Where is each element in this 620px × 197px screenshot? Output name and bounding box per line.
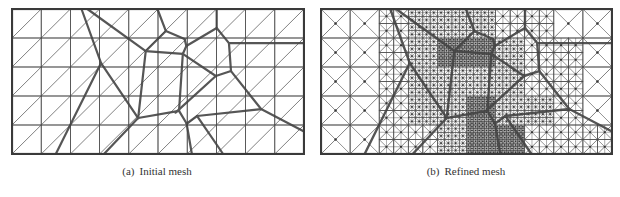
mesh-drawing <box>11 8 305 155</box>
mesh-grid <box>12 9 304 154</box>
caption-label-b: (b) <box>427 165 440 177</box>
initial-mesh-panel <box>11 8 305 155</box>
caption-text-a: Initial mesh <box>139 165 191 177</box>
caption-refined-mesh: (b)Refined mesh <box>427 165 506 177</box>
caption-initial-mesh: (a)Initial mesh <box>122 165 191 177</box>
refined-mesh-panel <box>320 8 613 155</box>
caption-text-b: Refined mesh <box>445 165 506 177</box>
mesh-grid <box>321 9 612 154</box>
mesh-drawing <box>320 8 613 155</box>
caption-label-a: (a) <box>122 165 134 177</box>
